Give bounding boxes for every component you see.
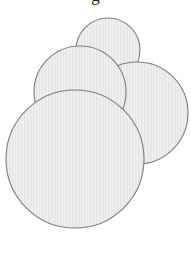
circles-diagram bbox=[0, 0, 191, 278]
figure-canvas: g bbox=[0, 0, 191, 278]
circle-bottom-large bbox=[6, 90, 144, 228]
